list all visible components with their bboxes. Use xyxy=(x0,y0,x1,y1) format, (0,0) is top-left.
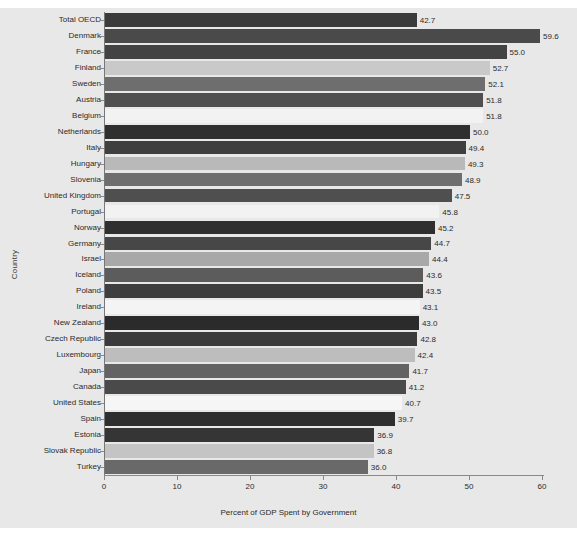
x-axis-line xyxy=(104,475,544,476)
bar-value-label: 49.3 xyxy=(465,159,484,168)
bar xyxy=(105,45,507,59)
bar-value-label: 42.4 xyxy=(415,351,434,360)
bar xyxy=(105,125,470,139)
category-label: Norway xyxy=(0,224,101,232)
bar-value-label: 55.0 xyxy=(507,47,526,56)
y-axis-tick xyxy=(100,403,104,404)
category-axis-labels: Total OECDDenmarkFranceFinlandSwedenAust… xyxy=(0,12,101,475)
y-axis-tick xyxy=(100,84,104,85)
x-axis-tick-label: 30 xyxy=(308,482,338,491)
bar-row: 44.7 xyxy=(105,236,543,252)
y-axis-tick xyxy=(100,323,104,324)
bar-row: 40.7 xyxy=(105,395,543,411)
bar xyxy=(105,13,417,27)
plot-area: 42.759.655.052.752.151.851.850.049.449.3… xyxy=(105,12,543,475)
bar xyxy=(105,348,415,362)
bar-value-label: 51.8 xyxy=(483,95,502,104)
bar-row: 44.4 xyxy=(105,251,543,267)
category-label: Finland xyxy=(0,64,101,72)
bar xyxy=(105,221,435,235)
bar-value-label: 48.9 xyxy=(462,175,481,184)
x-axis-tick-label: 60 xyxy=(527,482,557,491)
category-label: Portugal xyxy=(0,208,101,216)
bar-row: 41.7 xyxy=(105,363,543,379)
chart-screenshot: Country Total OECDDenmarkFranceFinlandSw… xyxy=(0,0,577,538)
bar-value-label: 43.5 xyxy=(423,287,442,296)
bar-row: 41.2 xyxy=(105,379,543,395)
y-axis-tick xyxy=(100,68,104,69)
bar-value-label: 43.6 xyxy=(423,271,442,280)
y-axis-tick xyxy=(100,132,104,133)
bar xyxy=(105,380,406,394)
category-label: Turkey xyxy=(0,463,101,471)
bar-row: 59.6 xyxy=(105,28,543,44)
y-axis-tick xyxy=(100,307,104,308)
bar-row: 45.8 xyxy=(105,204,543,220)
bar-value-label: 52.1 xyxy=(485,79,504,88)
x-axis-tick-label: 50 xyxy=(454,482,484,491)
bar xyxy=(105,157,465,171)
bar-row: 42.7 xyxy=(105,12,543,28)
bar-row: 50.0 xyxy=(105,124,543,140)
category-label: Netherlands xyxy=(0,128,101,136)
y-axis-tick xyxy=(100,387,104,388)
category-label: Israel xyxy=(0,255,101,263)
bar xyxy=(105,316,419,330)
bar-value-label: 51.8 xyxy=(483,111,502,120)
bar xyxy=(105,61,490,75)
bar-row: 36.9 xyxy=(105,427,543,443)
category-label: United States xyxy=(0,399,101,407)
y-axis-tick xyxy=(100,371,104,372)
bar-value-label: 43.1 xyxy=(420,303,439,312)
category-label: Italy xyxy=(0,144,101,152)
bar xyxy=(105,77,485,91)
x-axis-tick-label: 20 xyxy=(235,482,265,491)
x-axis-tick-label: 0 xyxy=(89,482,119,491)
bar xyxy=(105,29,540,43)
bar xyxy=(105,189,452,203)
y-axis-tick xyxy=(100,148,104,149)
bar xyxy=(105,412,395,426)
bar xyxy=(105,205,439,219)
bar-row: 51.8 xyxy=(105,92,543,108)
bar-row: 51.8 xyxy=(105,108,543,124)
bar-row: 48.9 xyxy=(105,172,543,188)
bar xyxy=(105,284,423,298)
bar xyxy=(105,332,417,346)
bar-value-label: 36.9 xyxy=(374,431,393,440)
bar-value-label: 36.8 xyxy=(374,447,393,456)
y-axis-tick xyxy=(100,419,104,420)
category-label: Czech Republic xyxy=(0,335,101,343)
y-axis-tick xyxy=(100,100,104,101)
bar xyxy=(105,252,429,266)
category-label: Luxembourg xyxy=(0,351,101,359)
bar-row: 55.0 xyxy=(105,44,543,60)
x-axis-tick xyxy=(323,476,324,480)
category-label: Denmark xyxy=(0,32,101,40)
y-axis-tick xyxy=(100,275,104,276)
category-label: Hungary xyxy=(0,160,101,168)
y-axis-tick xyxy=(100,20,104,21)
category-label: France xyxy=(0,48,101,56)
bar-row: 43.6 xyxy=(105,267,543,283)
y-axis-tick xyxy=(100,244,104,245)
bar-value-label: 45.2 xyxy=(435,223,454,232)
bar-value-label: 41.2 xyxy=(406,383,425,392)
x-axis-title: Percent of GDP Spent by Government xyxy=(0,508,577,517)
bar-row: 49.3 xyxy=(105,156,543,172)
category-label: Belgium xyxy=(0,112,101,120)
y-axis-tick xyxy=(100,291,104,292)
y-axis-tick xyxy=(100,435,104,436)
category-label: Canada xyxy=(0,383,101,391)
bar xyxy=(105,93,483,107)
bar-row: 43.5 xyxy=(105,283,543,299)
bar-row: 42.8 xyxy=(105,331,543,347)
bar-value-label: 44.7 xyxy=(431,239,450,248)
y-axis-tick xyxy=(100,36,104,37)
category-label: Japan xyxy=(0,367,101,375)
bar-value-label: 45.8 xyxy=(439,207,458,216)
category-label: Spain xyxy=(0,415,101,423)
chart-canvas: Country Total OECDDenmarkFranceFinlandSw… xyxy=(0,8,577,528)
bar-row: 42.4 xyxy=(105,347,543,363)
bar-value-label: 59.6 xyxy=(540,31,559,40)
